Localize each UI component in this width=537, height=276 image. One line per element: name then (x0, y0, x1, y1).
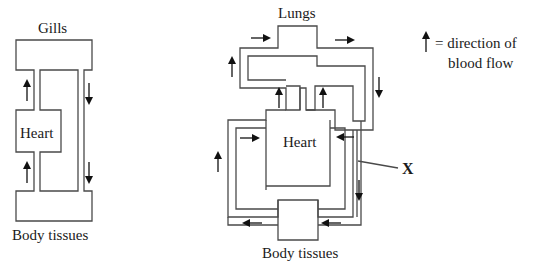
body-tissues-box (278, 200, 318, 240)
legend-line-2: blood flow (448, 56, 513, 71)
fish-heart-label: Heart (20, 126, 53, 141)
mammal-diagram (228, 26, 398, 240)
mammal-flow-arrows (218, 35, 426, 223)
fish-body-tissues-label: Body tissues (12, 228, 88, 243)
x-label: X (402, 161, 414, 177)
gills-label: Gills (38, 21, 67, 36)
mammal-heart-label: Heart (283, 135, 316, 150)
mammal-body-tissues-label: Body tissues (262, 246, 338, 261)
x-pointer-line (358, 161, 398, 168)
lungs-label: Lungs (278, 6, 316, 21)
legend-line-1: = direction of (435, 36, 517, 51)
heart-outer (228, 110, 353, 217)
